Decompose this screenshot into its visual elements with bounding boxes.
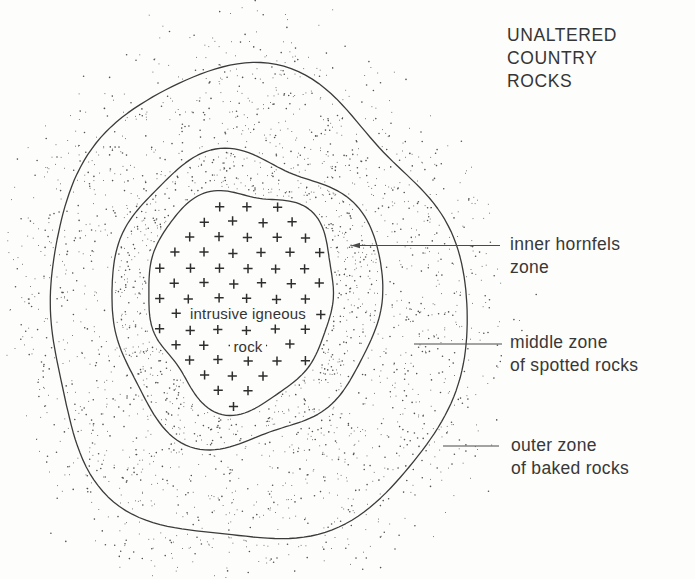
intrusive-igneous-rock-label-line2: rock <box>230 339 265 356</box>
middle-zone-spotted-rocks-label: middle zone of spotted rocks <box>510 331 638 377</box>
inner-hornfels-zone-label: inner hornfels zone <box>510 233 620 279</box>
intrusive-igneous-rock-label: intrusive igneous rock <box>160 289 336 355</box>
outer-zone-baked-rocks-label: outer zone of baked rocks <box>511 434 629 480</box>
unaltered-country-rocks-label: UNALTERED COUNTRY ROCKS <box>507 24 617 93</box>
intrusive-igneous-rock-label-line1: intrusive igneous <box>187 306 309 323</box>
metamorphic-aureole-figure: UNALTERED COUNTRY ROCKS inner hornfels z… <box>0 0 695 579</box>
